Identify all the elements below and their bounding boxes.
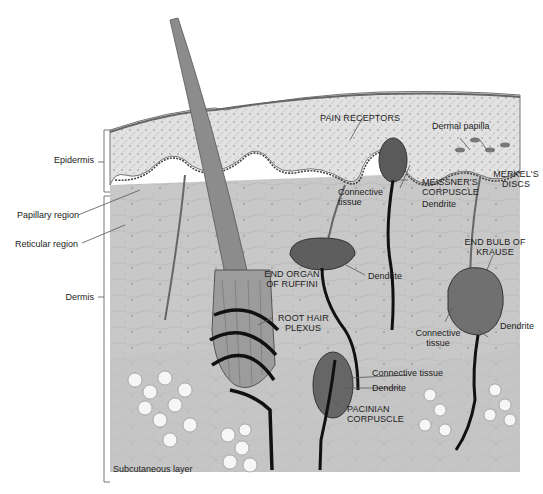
label-pain-receptors: PAIN RECEPTORS: [320, 113, 400, 123]
label-dermis: Dermis: [0, 292, 94, 302]
krause-end-bulb: [448, 268, 503, 335]
label-meissner-corpuscle: MEISSNER'S CORPUSCLE: [422, 177, 479, 197]
label-subcutaneous-layer: Subcutaneous layer: [113, 464, 193, 474]
label-pacinian-corpuscle: PACINIAN CORPUSCLE: [347, 404, 404, 424]
label-pacinian-connective-tissue: Connective tissue: [372, 368, 443, 378]
label-krause-dendrite: Dendrite: [500, 321, 534, 331]
label-connective-tissue: Connective tissue: [338, 187, 383, 207]
meissner-corpuscle: [379, 138, 407, 182]
skin-receptor-diagram: Epidermis Papillary region Reticular reg…: [0, 0, 543, 494]
label-end-bulb-of-krause: END BULB OF KRAUSE: [460, 237, 530, 257]
label-meissner-dendrite: Dendrite: [422, 199, 456, 209]
label-krause-connective-tissue: Connective tissue: [410, 328, 466, 348]
label-pacinian-dendrite: Dendrite: [372, 383, 406, 393]
label-end-organ-of-ruffini: END ORGAN OF RUFFINI: [262, 269, 322, 289]
label-merkel-discs: MERKEL'S DISCS: [486, 169, 543, 189]
label-dermal-papilla: Dermal papilla: [432, 121, 490, 131]
label-epidermis: Epidermis: [0, 155, 94, 165]
label-reticular-region: Reticular region: [15, 239, 78, 249]
label-root-hair-plexus: ROOT HAIR PLEXUS: [278, 313, 328, 333]
label-ruffini-dendrite: Dendrite: [368, 271, 402, 281]
label-papillary-region: Papillary region: [17, 210, 79, 220]
